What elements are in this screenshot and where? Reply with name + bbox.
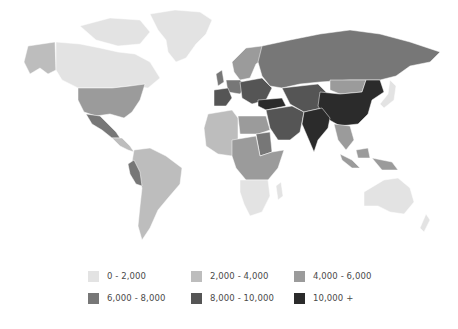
region-south-america [132,148,182,240]
region-usa [78,84,145,118]
legend-label: 8,000 - 10,000 [210,293,274,303]
region-spain-france [214,88,232,106]
region-japan [380,80,396,108]
legend-label: 10,000 + [313,293,353,303]
region-uk [216,70,224,86]
region-alaska [24,42,56,74]
region-new-zealand [420,214,430,232]
region-mexico [86,114,120,138]
legend-label: 4,000 - 6,000 [313,271,371,281]
legend-swatch [294,271,305,282]
legend-swatch [88,271,99,282]
region-southeast-asia [334,124,354,150]
region-indonesia [340,148,398,170]
legend-label: 6,000 - 8,000 [107,293,165,303]
legend-label: 2,000 - 4,000 [210,271,268,281]
legend-item-6000-8000: 6,000 - 8,000 [88,291,165,305]
region-canada [56,42,160,88]
region-greenland [150,10,212,62]
legend-swatch [191,271,202,282]
legend-swatch [294,293,305,304]
world-map [0,0,458,245]
region-arctic-islands [80,18,150,46]
legend-label: 0 - 2,000 [107,271,146,281]
legend-swatch [191,293,202,304]
region-middle-east [266,106,304,140]
legend-item-0-2000: 0 - 2,000 [88,269,146,283]
region-russia [258,30,440,88]
region-egypt-libya [238,116,270,134]
legend-item-8000-10000: 8,000 - 10,000 [191,291,274,305]
legend-swatch [88,293,99,304]
region-africa-south [240,180,270,216]
legend-item-10000-plus: 10,000 + [294,291,353,305]
region-central-america [112,138,134,152]
legend-item-4000-6000: 4,000 - 6,000 [294,269,371,283]
region-madagascar [276,182,283,200]
region-india [302,108,330,152]
legend-item-2000-4000: 2,000 - 4,000 [191,269,268,283]
region-australia [364,178,414,214]
